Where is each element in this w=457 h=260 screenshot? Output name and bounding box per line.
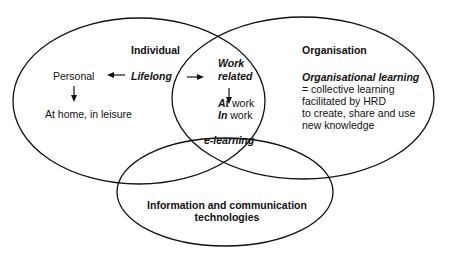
in-suffix: work (227, 109, 252, 121)
at-home-label: At home, in leisure (45, 108, 132, 120)
in-work-label: In work (218, 109, 252, 121)
lifelong-label: Lifelong (131, 70, 172, 82)
organisational-learning-label: Organisational learning (302, 71, 419, 83)
org-line-1: = collective learning (302, 83, 395, 95)
org-line-4: new knowledge (302, 119, 374, 131)
at-suffix: work (229, 97, 254, 109)
ict-line-1: Information and communication (130, 199, 324, 211)
individual-title: Individual (131, 44, 180, 56)
organisation-title: Organisation (302, 44, 367, 56)
related-label: related (218, 70, 252, 82)
arrow-down-personal-icon (71, 86, 77, 102)
e-learning-label: e-learning (204, 134, 254, 146)
at-work-label: At work (218, 97, 254, 109)
ict-line-2: technologies (130, 211, 324, 223)
arrow-left-icon (107, 72, 125, 78)
ict-ellipse (117, 138, 333, 246)
in-prefix: In (218, 109, 227, 121)
at-prefix: At (218, 97, 229, 109)
org-line-2: facilitated by HRD (302, 95, 386, 107)
work-label: Work (218, 57, 244, 69)
org-line-3: to create, share and use (302, 107, 415, 119)
arrow-right-icon (187, 74, 204, 80)
personal-label: Personal (53, 70, 94, 82)
